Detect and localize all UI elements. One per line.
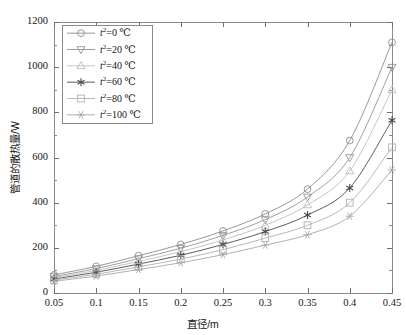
chart-canvas (0, 0, 406, 335)
data-series (51, 116, 396, 283)
y-tick-label: 200 (4, 241, 48, 252)
x-axis-title: 直径/m (0, 316, 406, 331)
x-tick-label: 0.4 (330, 297, 370, 308)
x-tick-label: 0.45 (372, 297, 406, 308)
x-tick-label: 0.15 (119, 297, 159, 308)
series-line (54, 147, 392, 280)
data-series (51, 144, 396, 284)
y-tick-label: 1000 (4, 60, 48, 71)
legend-entry-2: t2=20 ℃ (100, 43, 136, 55)
x-tick-label: 0.35 (288, 297, 328, 308)
legend-entry-6: t2=100 ℃ (100, 108, 141, 120)
x-tick-label: 0.2 (161, 297, 201, 308)
y-axis-title: 管道的散热量/W (7, 98, 22, 218)
chart-figure: 020040060080010001200 0.050.10.150.20.25… (0, 0, 406, 335)
legend-entry-1: t2=0 ℃ (100, 26, 131, 38)
x-tick-label: 0.05 (34, 297, 74, 308)
x-tick-label: 0.25 (203, 297, 243, 308)
x-tick-label: 0.3 (245, 297, 285, 308)
y-tick-label: 0 (4, 286, 48, 297)
x-tick-label: 0.1 (76, 297, 116, 308)
legend-entry-4: t2=60 ℃ (100, 75, 136, 87)
legend-entry-3: t2=40 ℃ (100, 59, 136, 71)
legend-entry-5: t2=80 ℃ (100, 92, 136, 104)
y-tick-label: 1200 (4, 15, 48, 26)
